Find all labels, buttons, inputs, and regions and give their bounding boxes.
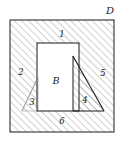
boundary-label-6: 6 (59, 117, 64, 126)
boundary-label-2: 2 (18, 68, 23, 77)
boundary-label-5: 5 (100, 69, 105, 78)
boundary-label-4: 4 (82, 96, 87, 105)
domain-label-d: D (106, 6, 114, 16)
geometry-figure: D 1 2 3 4 5 6 B (0, 0, 123, 141)
boundary-label-1: 1 (59, 30, 64, 39)
boundary-label-3: 3 (29, 98, 34, 107)
region-label-b: B (53, 76, 60, 86)
